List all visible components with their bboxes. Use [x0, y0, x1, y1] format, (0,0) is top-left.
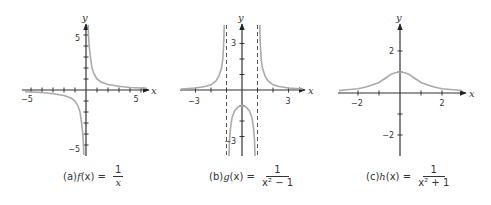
fraction: 1 x² + 1 [418, 164, 449, 189]
curve-right-branch [88, 25, 147, 88]
x-tick-label-pos: 3 [285, 97, 290, 106]
y-axis-label: y [237, 12, 244, 23]
y-tick-label-pos: 2 [389, 47, 394, 56]
x-axis-label: x [469, 88, 475, 99]
denominator: x² − 1 [262, 177, 293, 189]
caption-rest: (x) = [81, 171, 109, 182]
numerator: 1 [423, 164, 445, 177]
caption-b: (b) g (x) = 1 x² − 1 [209, 164, 293, 189]
caption-prefix: (c) [366, 171, 379, 182]
caption-c: (c) h (x) = 1 x² + 1 [366, 164, 449, 189]
caption-a: (a) f (x) = 1 x [63, 164, 123, 189]
x-tick-label-neg: −2 [351, 99, 363, 108]
y-tick-label-pos: 3 [231, 39, 236, 48]
x-tick-label-neg: −5 [21, 95, 33, 104]
caption-prefix: (b) [209, 171, 223, 182]
x-axis-label: x [308, 85, 314, 96]
x-axis-label: x [151, 85, 157, 96]
denominator: x² + 1 [418, 177, 449, 189]
numerator: 1 [113, 164, 123, 177]
x-tick-label-neg: −3 [188, 97, 200, 106]
curve-right-branch [260, 25, 303, 89]
caption-prefix: (a) [63, 171, 77, 182]
curve-left-branch [181, 25, 224, 89]
y-tick-label-neg: −3 [224, 137, 236, 146]
caption-rest: (x) = [230, 171, 258, 182]
denominator: x [115, 177, 121, 189]
y-axis-label: y [395, 12, 402, 23]
fraction: 1 x [113, 164, 123, 189]
y-tick-label-pos: 5 [75, 34, 80, 43]
y-tick-label-neg: −5 [68, 145, 80, 154]
y-axis-label: y [81, 12, 88, 23]
graph-b: 3 −3 −3 3 x y [180, 12, 314, 156]
graph-a: 5 −5 −5 5 x y [21, 12, 157, 156]
x-tick-label-pos: 5 [133, 95, 138, 104]
numerator: 1 [266, 164, 288, 177]
fraction: 1 x² − 1 [262, 164, 293, 189]
graph-c: 2 −2 −2 2 x y [338, 12, 475, 156]
x-tick-label-pos: 2 [439, 99, 444, 108]
caption-rest: (x) = [386, 171, 414, 182]
y-tick-label-neg: −2 [382, 131, 394, 140]
